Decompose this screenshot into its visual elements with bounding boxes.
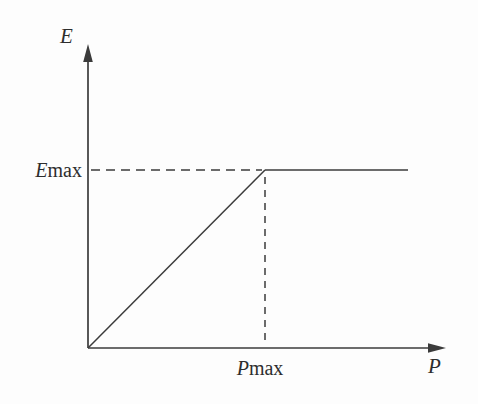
pmax-label-var: P bbox=[237, 357, 249, 379]
y-axis-arrowhead-icon bbox=[83, 44, 93, 62]
pmax-label: Pmax bbox=[225, 358, 295, 378]
x-axis-arrowhead-icon bbox=[428, 343, 446, 353]
plot-canvas bbox=[0, 0, 478, 404]
curve-rising-segment bbox=[88, 170, 265, 348]
x-axis-label: P bbox=[428, 356, 441, 377]
emax-label: Emax bbox=[18, 160, 82, 180]
y-axis-label: E bbox=[60, 26, 73, 47]
pmax-label-suffix: max bbox=[249, 357, 283, 379]
emax-label-var: E bbox=[35, 159, 47, 181]
emax-label-suffix: max bbox=[48, 159, 82, 181]
e-vs-p-saturation-plot: E P Emax Pmax bbox=[0, 0, 478, 404]
